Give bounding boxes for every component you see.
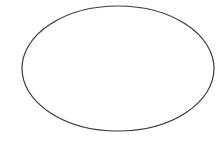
canvas-background xyxy=(0,0,223,153)
diagram-canvas xyxy=(0,0,223,153)
